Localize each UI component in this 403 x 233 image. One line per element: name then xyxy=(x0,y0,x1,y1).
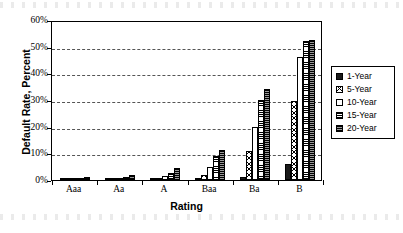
legend-item-label: 5-Year xyxy=(347,85,372,94)
y-tick-label: 10% xyxy=(2,149,48,159)
plot-area xyxy=(51,21,322,181)
gridline xyxy=(52,155,321,156)
legend-item[interactable]: 15-Year xyxy=(336,109,391,122)
chart-legend: 1-Year5-Year10-Year15-Year20-Year xyxy=(331,66,395,139)
legend-item-label: 15-Year xyxy=(347,111,376,120)
legend-swatch-icon xyxy=(336,99,343,106)
x-axis-title: Rating xyxy=(51,200,322,212)
legend-item[interactable]: 5-Year xyxy=(336,83,391,96)
legend-item[interactable]: 10-Year xyxy=(336,96,391,109)
y-tick-label: 40% xyxy=(2,69,48,79)
legend-item[interactable]: 20-Year xyxy=(336,122,391,135)
bar xyxy=(84,177,90,180)
gridline xyxy=(52,49,321,50)
legend-swatch-icon xyxy=(336,112,343,119)
legend-item-label: 1-Year xyxy=(347,72,372,81)
bar xyxy=(129,175,135,180)
gridline xyxy=(52,102,321,103)
x-category-label: Aaa xyxy=(52,184,96,194)
bar xyxy=(174,168,180,180)
gridline xyxy=(52,75,321,76)
gridline xyxy=(52,129,321,130)
y-tick-mark xyxy=(47,181,51,182)
x-category-label: B xyxy=(277,184,321,194)
y-tick-label: 30% xyxy=(2,96,48,106)
x-category-label: Ba xyxy=(232,184,276,194)
x-tick-mark xyxy=(323,180,324,185)
legend-swatch-icon xyxy=(336,125,343,132)
y-tick-label: 50% xyxy=(2,43,48,53)
y-tick-label: 60% xyxy=(2,16,48,26)
default-rate-bar-chart: Default Rate, Percent 0%10%20%30%40%50%6… xyxy=(0,0,403,233)
bar xyxy=(264,89,270,180)
y-tick-label: 20% xyxy=(2,123,48,133)
legend-swatch-icon xyxy=(336,73,343,80)
scan-noise xyxy=(0,214,403,220)
x-category-label: A xyxy=(142,184,186,194)
legend-item-label: 20-Year xyxy=(347,124,376,133)
bar xyxy=(309,40,315,180)
legend-item-label: 10-Year xyxy=(347,98,376,107)
x-category-label: Aa xyxy=(97,184,141,194)
scan-noise xyxy=(0,2,403,8)
legend-swatch-icon xyxy=(336,86,343,93)
x-category-label: Baa xyxy=(187,184,231,194)
y-tick-label: 0% xyxy=(2,176,48,186)
legend-item[interactable]: 1-Year xyxy=(336,70,391,83)
bar xyxy=(219,150,225,180)
